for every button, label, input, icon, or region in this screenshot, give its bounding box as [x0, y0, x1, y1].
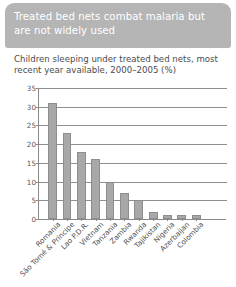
y-axis-tick-label: 30	[27, 102, 36, 111]
bar-slot	[63, 88, 72, 219]
y-axis-tick-label: 20	[27, 140, 36, 149]
bar-slot	[163, 88, 172, 219]
bar-slot	[192, 88, 201, 219]
chart-card: Children sleeping under treated bed nets…	[5, 52, 231, 284]
bar-slot	[149, 88, 158, 219]
chart-title: Children sleeping under treated bed nets…	[14, 54, 224, 76]
bar[interactable]	[48, 103, 57, 219]
bar-slot	[48, 88, 57, 219]
x-axis-labels: RomaniaSão Tomé & PríncipeLao P.D.R.Viet…	[38, 220, 236, 282]
y-axis-tick-label: 10	[27, 177, 36, 186]
y-axis-tick-label: 25	[27, 121, 36, 130]
y-axis-tick-label: 15	[27, 158, 36, 167]
y-axis-tick-label: 35	[27, 84, 36, 93]
page-title: Treated bed nets combat malaria but are …	[14, 10, 222, 37]
header-panel: Treated bed nets combat malaria but are …	[5, 3, 231, 48]
